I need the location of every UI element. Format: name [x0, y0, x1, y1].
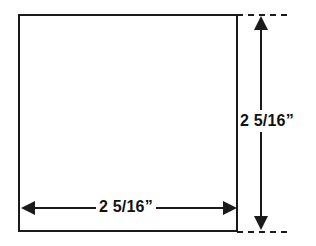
- arrow-down-icon: [254, 216, 268, 230]
- arrow-left-icon: [21, 201, 35, 215]
- extension-line-bottom-icon: [237, 231, 287, 233]
- vertical-dimension-label: 2 5/16”: [239, 110, 295, 132]
- horizontal-dimension-label: 2 5/16”: [96, 197, 156, 217]
- arrow-right-icon: [223, 201, 237, 215]
- arrow-up-icon: [254, 16, 268, 30]
- technical-drawing-canvas: 2 5/16” 2 5/16”: [0, 0, 316, 246]
